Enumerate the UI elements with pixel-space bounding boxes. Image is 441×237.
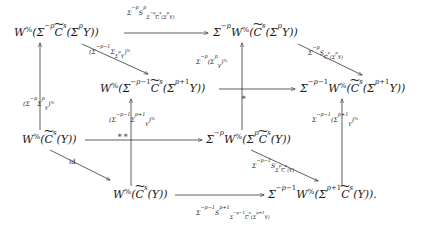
arrow-label-diagonal-top-right: Σ−pSCs(ΣpY) bbox=[308, 50, 343, 57]
arrow-label-top-horizontal: Σ−pSpΣ−pCs(ΣpY) bbox=[127, 10, 175, 17]
arrow-label-bottom-horizontal: Σ−p−1Sp+1Σ−p−1Cs(Σp+1Y) bbox=[196, 210, 270, 217]
node-bottom-right: Σ−p−1W%(Σp+1Cs(Y)). bbox=[268, 189, 377, 201]
arrow-diagonal-lowerleft-to-bottomleft bbox=[50, 150, 110, 180]
node-top-right: Σ−pW%(Cs(ΣpY)) bbox=[213, 27, 298, 39]
node-middle-left: W%(Σ−p−1Cs(Σp+1Y)) bbox=[100, 83, 205, 95]
node-lower-middle: Σ−pW%(ΣpCs(Y)) bbox=[206, 134, 291, 146]
commutative-diagram: W%(Σ−pCs(ΣpY)) Σ−pW%(Cs(ΣpY)) W%(Σ−p−1Cs… bbox=[0, 0, 441, 237]
arrow-label-diagonal-top-left: (Σ−p−1ΣΣpY)% bbox=[89, 49, 130, 56]
arrow-label-vertical-right: Σ−p−1(Σp+1Y)% bbox=[312, 117, 358, 124]
node-middle-right: Σ−p−1W%(Cs(Σp+1Y)) bbox=[300, 83, 405, 95]
arrow-label-star-single: ∗ bbox=[241, 94, 247, 102]
node-bottom-left: W%(Cs(Y)) bbox=[113, 189, 168, 201]
node-top-left: W%(Σ−pCs(ΣpY)) bbox=[14, 27, 99, 39]
arrow-label-star-double: ∗∗ bbox=[117, 132, 129, 140]
arrow-label-vertical-middle-upper: Σ−p(ΣpY)% bbox=[196, 59, 227, 66]
arrow-label-vertical-middle-left: (Σ−p−1Σp+1Y)% bbox=[109, 117, 155, 124]
arrow-label-vertical-left: (Σ−pΣpY)% bbox=[23, 101, 54, 108]
arrow-label-identity: id bbox=[69, 159, 76, 166]
node-lower-left: W%(Cs(Y)) bbox=[22, 134, 77, 146]
arrow-label-diagonal-bottom-right: Σ−p−1SΣpCs(Y) bbox=[252, 163, 294, 170]
